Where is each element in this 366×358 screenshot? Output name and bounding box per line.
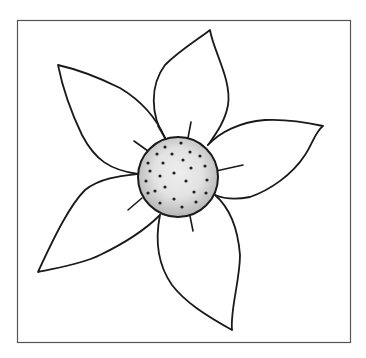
flower-center <box>138 137 218 217</box>
flower-illustration <box>0 0 366 358</box>
flower-drawing: Line drawing of a five-petal flower with… <box>0 0 366 358</box>
